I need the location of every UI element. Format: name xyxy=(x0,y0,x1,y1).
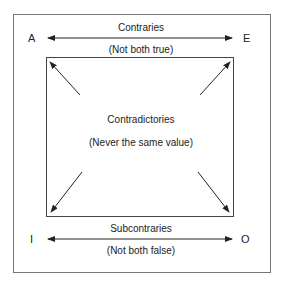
diagonal-arrow-i xyxy=(51,172,82,212)
corner-i: I xyxy=(30,233,33,245)
diagonal-arrow-a xyxy=(50,62,80,95)
contradictories-rule: (Never the same value) xyxy=(89,137,193,149)
subcontraries-label: Subcontraries xyxy=(110,223,172,235)
diagonal-arrow-o xyxy=(198,172,229,212)
corner-a: A xyxy=(28,32,35,44)
subcontraries-rule: (Not both false) xyxy=(107,245,175,257)
diagonal-arrow-e xyxy=(200,62,230,95)
contraries-rule: (Not both true) xyxy=(109,44,173,56)
corner-o: O xyxy=(241,233,250,245)
contradictories-label: Contradictories xyxy=(107,114,174,126)
contraries-label: Contraries xyxy=(118,22,164,34)
corner-e: E xyxy=(243,32,250,44)
